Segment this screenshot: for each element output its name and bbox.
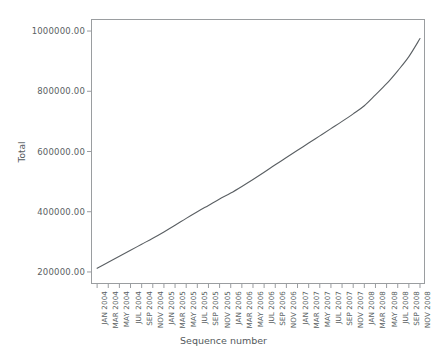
x-tick-label: NOV 2008 <box>423 291 432 328</box>
x-tick-label: MAY 2007 <box>323 291 332 327</box>
y-tick-label: 400000.00 <box>37 207 85 217</box>
x-tick-label: JAN 2004 <box>100 291 109 325</box>
x-tick-label: NOV 2007 <box>356 291 365 328</box>
x-tick-label: JAN 2005 <box>167 291 176 325</box>
y-tick-label: 1000000.00 <box>32 26 85 36</box>
x-tick-marks <box>97 284 420 288</box>
x-tick-label: MAY 2005 <box>189 291 198 327</box>
line-chart: 200000.00400000.00600000.00800000.001000… <box>0 0 447 359</box>
x-tick-label: NOV 2005 <box>223 291 232 328</box>
x-tick-label: JUL 2004 <box>134 291 143 324</box>
x-tick-label: JUL 2006 <box>267 291 276 324</box>
data-series-layer <box>91 19 425 284</box>
x-tick-label: MAY 2006 <box>256 291 265 327</box>
x-tick-label: SEP 2006 <box>278 291 287 326</box>
x-tick-label: MAR 2006 <box>245 291 254 329</box>
x-tick-label: MAY 2008 <box>390 291 399 327</box>
series-line-total <box>97 39 420 269</box>
x-tick-label: JAN 2007 <box>301 291 310 325</box>
x-axis-title: Sequence number <box>0 335 447 346</box>
x-tick-label: JAN 2008 <box>367 291 376 325</box>
x-tick-label: SEP 2007 <box>345 291 354 326</box>
y-tick-label: 800000.00 <box>37 86 85 96</box>
x-tick-label: MAY 2004 <box>122 291 131 327</box>
x-tick-label: NOV 2006 <box>289 291 298 328</box>
x-tick-label: MAR 2008 <box>378 291 387 329</box>
x-tick-label: NOV 2004 <box>156 291 165 328</box>
x-tick-label: MAR 2005 <box>178 291 187 329</box>
y-axis-title: Total <box>17 141 27 162</box>
y-tick-label: 600000.00 <box>37 147 85 157</box>
x-tick-label: SEP 2005 <box>211 291 220 326</box>
y-tick-label: 200000.00 <box>37 267 85 277</box>
x-tick-label: JUL 2007 <box>334 291 343 324</box>
x-tick-label: SEP 2008 <box>412 291 421 326</box>
x-tick-label: MAR 2007 <box>312 291 321 329</box>
x-tick-label: JAN 2006 <box>234 291 243 325</box>
x-tick-label: MAR 2004 <box>111 291 120 329</box>
x-tick-label: JUL 2008 <box>401 291 410 324</box>
x-tick-label: JUL 2005 <box>200 291 209 324</box>
x-tick-label: SEP 2004 <box>145 291 154 326</box>
